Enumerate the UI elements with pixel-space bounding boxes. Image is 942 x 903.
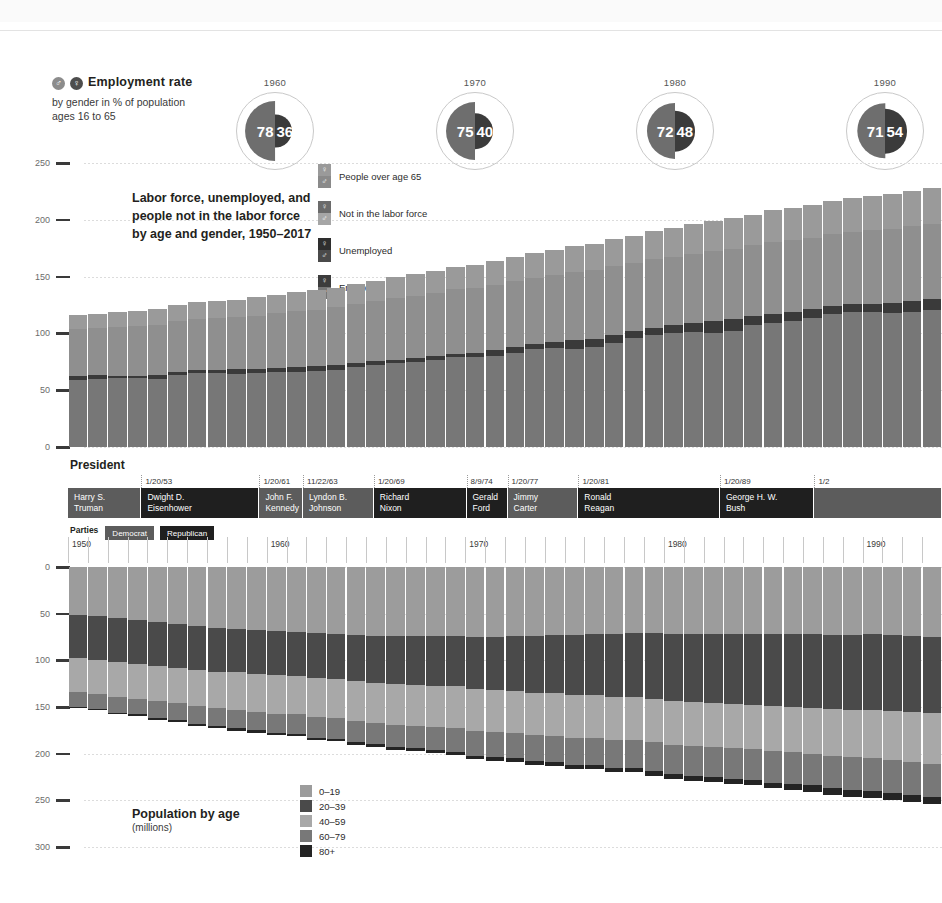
- y-axis-tick-label: 100: [24, 655, 50, 665]
- bar-segment: [267, 675, 286, 713]
- bar-segment: [645, 231, 664, 259]
- president-term[interactable]: GeraldFord: [467, 488, 508, 518]
- bar-column: [664, 155, 684, 455]
- bar-stack: [287, 567, 306, 736]
- y-axis-tick-label: 0: [24, 562, 50, 572]
- bar-segment: [704, 567, 723, 634]
- bar-segment: [724, 567, 743, 634]
- year-tick: [545, 537, 549, 563]
- bar-segment: [565, 738, 584, 765]
- president-term[interactable]: RonaldReagan: [578, 488, 720, 518]
- bar-stack: [625, 567, 644, 772]
- bar-column: [326, 155, 346, 455]
- bar-stack: [69, 315, 88, 447]
- bar-segment: [208, 373, 227, 447]
- bar-segment: [287, 372, 306, 447]
- president-start-date: 11/22/63: [303, 475, 338, 488]
- bottom-chart-units: (millions): [132, 822, 312, 833]
- bar-segment: [823, 709, 842, 756]
- bar-segment: [883, 793, 902, 800]
- bar-column: [823, 155, 843, 455]
- bar-segment: [645, 742, 664, 771]
- bar-stack: [426, 271, 445, 447]
- bar-segment: [406, 567, 425, 636]
- president-name-line-2: Ford: [473, 503, 507, 514]
- bar-segment: [486, 285, 505, 351]
- bar-segment: [803, 318, 822, 448]
- donut-male-value: 71: [867, 123, 884, 140]
- bar-segment: [188, 724, 207, 726]
- bar-segment: [506, 281, 525, 347]
- bar-segment: [466, 357, 485, 447]
- bar-column: [545, 155, 565, 455]
- labor-force-chart: 250200150100500 Labor force, unemployed,…: [0, 155, 942, 455]
- bar-segment: [69, 380, 88, 447]
- bar-segment: [923, 310, 942, 447]
- bar-column: [167, 155, 187, 455]
- bar-segment: [506, 636, 525, 691]
- bar-column: [723, 155, 743, 455]
- president-term[interactable]: RichardNixon: [374, 488, 467, 518]
- bar-segment: [347, 635, 366, 681]
- bar-segment: [287, 676, 306, 714]
- y-axis-tick-label: 150: [24, 702, 50, 712]
- president-start-date: 1/20/53: [141, 475, 172, 488]
- bar-segment: [545, 275, 564, 342]
- president-term[interactable]: Harry S.Truman: [68, 488, 141, 518]
- president-term[interactable]: Dwight D.Eisenhower: [141, 488, 259, 518]
- bar-column: [187, 155, 207, 455]
- bar-segment: [784, 240, 803, 312]
- bar-segment: [545, 693, 564, 736]
- bar-column: [485, 155, 505, 455]
- president-name-line-1: Harry S.: [74, 492, 140, 503]
- bar-stack: [883, 194, 902, 447]
- bar-segment: [128, 714, 147, 716]
- bar-segment: [148, 718, 167, 720]
- bar-segment: [585, 634, 604, 695]
- bar-segment: [347, 367, 366, 447]
- president-term[interactable]: JimmyCarter: [508, 488, 579, 518]
- bar-stack: [704, 567, 723, 782]
- donut-female-value: 54: [887, 123, 904, 140]
- bar-stack: [744, 567, 763, 785]
- y-axis-tick-label: 50: [24, 609, 50, 619]
- bar-column: [584, 155, 604, 455]
- legend-label: 0–19: [319, 786, 340, 797]
- legend-swatch: [300, 800, 312, 812]
- bar-column: [247, 155, 267, 455]
- president-term[interactable]: John F.Kennedy: [259, 488, 303, 518]
- bar-segment: [645, 259, 664, 327]
- bar-segment: [69, 615, 88, 659]
- bar-segment: [446, 357, 465, 447]
- bar-segment: [227, 728, 246, 730]
- bar-segment: [744, 325, 763, 447]
- president-term[interactable]: [814, 488, 942, 518]
- bar-segment: [645, 771, 664, 776]
- bar-segment: [664, 228, 683, 256]
- president-term[interactable]: Lyndon B.Johnson: [303, 488, 374, 518]
- bar-segment: [307, 717, 326, 738]
- bar-segment: [744, 749, 763, 780]
- bar-segment: [565, 272, 584, 340]
- bar-segment: [724, 249, 743, 319]
- president-name-line-2: Eisenhower: [147, 503, 258, 514]
- bar-segment: [625, 331, 644, 338]
- donut-year-label: 1990: [839, 77, 931, 88]
- bar-segment: [69, 707, 88, 708]
- bar-segment: [426, 271, 445, 293]
- bar-segment: [863, 567, 882, 634]
- bar-stack: [843, 567, 862, 797]
- year-tick: [366, 537, 370, 563]
- bar-column: [306, 155, 326, 455]
- bar-segment: [327, 307, 346, 365]
- bar-segment: [69, 329, 88, 377]
- bar-stack: [645, 231, 664, 447]
- bar-segment: [446, 686, 465, 728]
- bar-stack: [803, 205, 822, 447]
- president-term[interactable]: George H. W.Bush: [720, 488, 814, 518]
- bar-segment: [188, 706, 207, 724]
- bar-column: [445, 155, 465, 455]
- bar-segment: [803, 567, 822, 634]
- bar-segment: [188, 373, 207, 447]
- bar-segment: [565, 246, 584, 272]
